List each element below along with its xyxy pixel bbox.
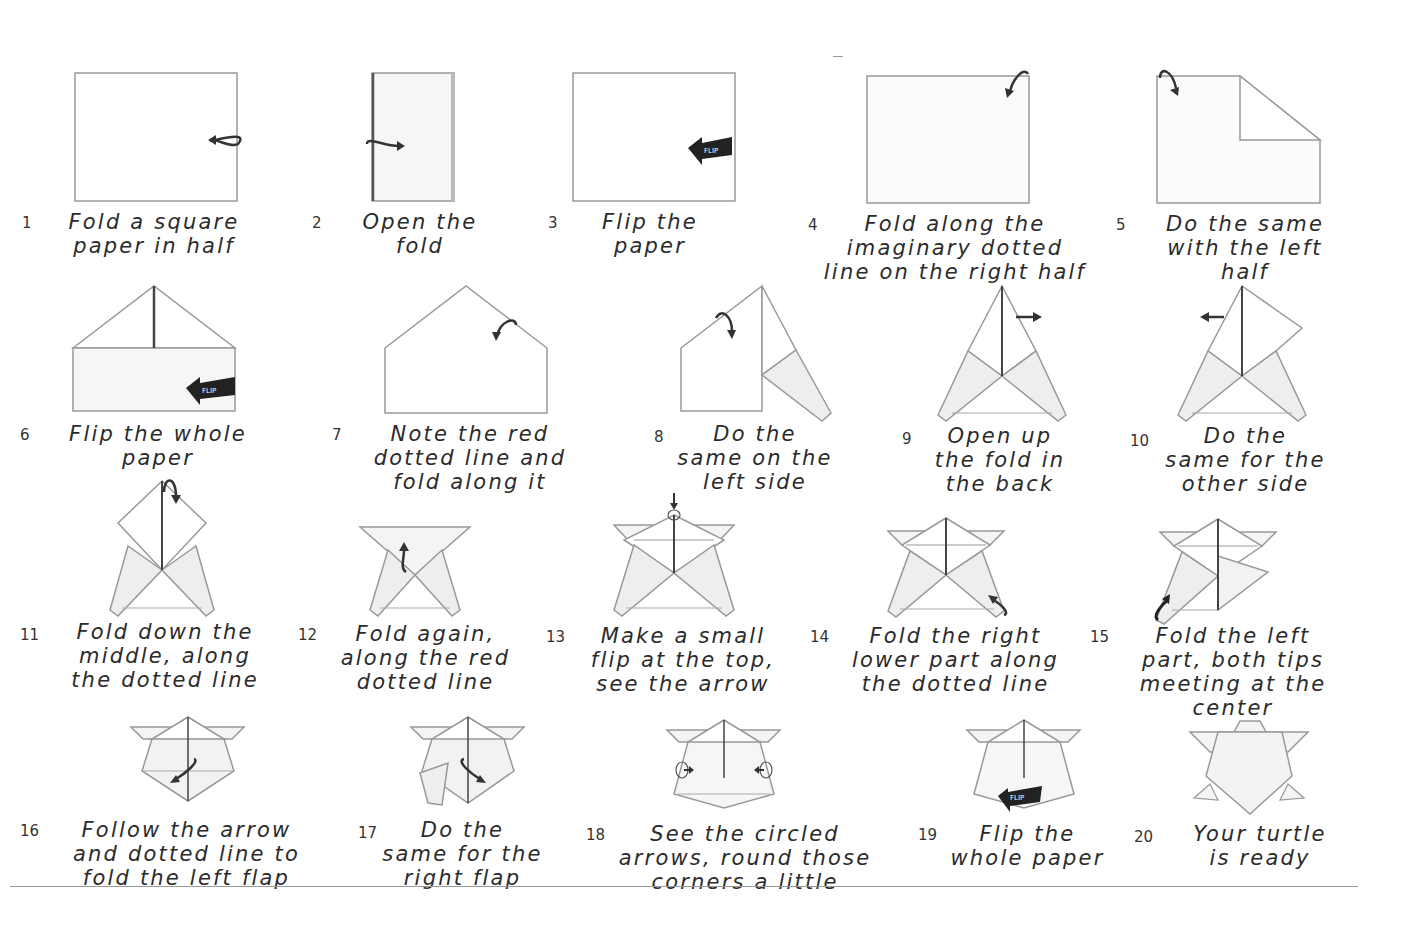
step-4-diagram xyxy=(862,68,1037,208)
step-7-diagram xyxy=(380,283,555,418)
step-1-number: 1 xyxy=(22,214,32,232)
step-5-diagram xyxy=(1152,68,1327,208)
step-7-number: 7 xyxy=(332,426,342,444)
bottom-rule xyxy=(10,886,1358,887)
step-15-number: 15 xyxy=(1090,628,1109,646)
step-3-caption: Flip the paper xyxy=(560,210,740,258)
step-16-number: 16 xyxy=(20,822,39,840)
step-1-diagram xyxy=(70,68,245,208)
step-3-diagram: FLIP xyxy=(568,68,743,208)
step-7-caption: Note the red dotted line and fold along … xyxy=(345,422,595,494)
step-9-diagram xyxy=(932,283,1077,428)
step-18-diagram xyxy=(664,718,784,818)
step-2-caption: Open the fold xyxy=(340,210,500,258)
step-11-caption: Fold down the middle, along the dotted l… xyxy=(50,620,280,692)
step-14-diagram xyxy=(878,515,1023,625)
svg-text:FLIP: FLIP xyxy=(704,147,718,155)
step-10-diagram xyxy=(1172,283,1317,428)
step-19-caption: Flip the whole paper xyxy=(935,822,1120,870)
step-5-number: 5 xyxy=(1116,216,1126,234)
step-17-diagram xyxy=(408,715,528,815)
step-13-diagram xyxy=(604,490,749,620)
step-9-number: 9 xyxy=(902,430,912,448)
step-4-number: 4 xyxy=(808,216,818,234)
step-20-caption: Your turtle is ready xyxy=(1170,822,1350,870)
step-9-caption: Open up the fold in the back xyxy=(905,424,1095,496)
step-10-number: 10 xyxy=(1130,432,1149,450)
step-2-number: 2 xyxy=(312,214,322,232)
step-11-number: 11 xyxy=(20,626,39,644)
step-17-caption: Do the same for the right flap xyxy=(360,818,565,890)
step-18-caption: See the circled arrows, round those corn… xyxy=(590,822,900,894)
left-arrow-icon xyxy=(1200,312,1224,322)
step-8-diagram xyxy=(676,283,836,428)
step-20-diagram xyxy=(1188,718,1313,818)
step-16-caption: Follow the arrow and dotted line to fold… xyxy=(44,818,329,890)
step-16-diagram xyxy=(128,715,248,810)
step-1-caption: Fold a square paper in half xyxy=(44,210,264,258)
down-arrow-icon xyxy=(670,493,678,510)
step-12-caption: Fold again, along the red dotted line xyxy=(318,622,533,694)
svg-text:FLIP: FLIP xyxy=(202,387,216,395)
step-14-caption: Fold the right lower part along the dott… xyxy=(828,624,1083,696)
step-17-number: 17 xyxy=(358,824,377,842)
step-19-number: 19 xyxy=(918,826,937,844)
stray-mark xyxy=(833,56,843,57)
step-4-caption: Fold along the imaginary dotted line on … xyxy=(795,212,1115,284)
step-8-caption: Do the same on the left side xyxy=(655,422,855,494)
step-6-number: 6 xyxy=(20,426,30,444)
step-12-diagram xyxy=(338,520,483,620)
step-11-diagram xyxy=(92,478,237,618)
step-5-caption: Do the same with the left half xyxy=(1140,212,1350,284)
step-13-number: 13 xyxy=(546,628,565,646)
step-19-diagram: FLIP xyxy=(964,718,1084,818)
step-6-diagram: FLIP xyxy=(68,283,243,418)
step-14-number: 14 xyxy=(810,628,829,646)
step-15-caption: Fold the left part, both tips meeting at… xyxy=(1118,624,1348,720)
step-13-caption: Make a small flip at the top, see the ar… xyxy=(568,624,798,696)
svg-text:FLIP: FLIP xyxy=(1010,794,1024,802)
step-10-caption: Do the same for the other side xyxy=(1148,424,1343,496)
step-8-number: 8 xyxy=(654,428,664,446)
step-18-number: 18 xyxy=(586,826,605,844)
step-12-number: 12 xyxy=(298,626,317,644)
step-3-number: 3 xyxy=(548,214,558,232)
step-15-diagram xyxy=(1150,516,1290,626)
step-2-diagram xyxy=(365,68,465,208)
step-6-caption: Flip the whole paper xyxy=(48,422,268,470)
step-20-number: 20 xyxy=(1134,828,1153,846)
